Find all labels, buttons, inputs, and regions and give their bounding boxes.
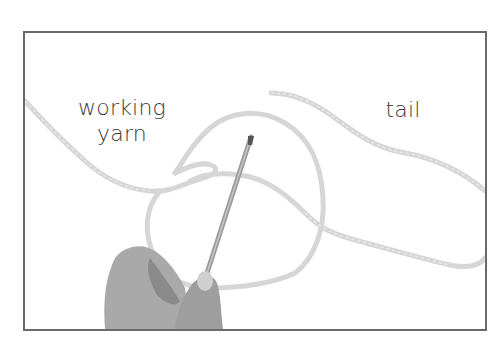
- working-yarn-label: working yarn: [75, 95, 169, 147]
- illustration-frame: working yarn tail: [23, 31, 487, 331]
- hand: [104, 246, 223, 329]
- working-yarn-label-line1: working: [75, 95, 169, 121]
- tail-label: tail: [383, 97, 423, 123]
- working-yarn-label-line2: yarn: [75, 121, 169, 147]
- needle: [207, 136, 254, 273]
- yarn-slip-knot-illustration: [25, 33, 485, 329]
